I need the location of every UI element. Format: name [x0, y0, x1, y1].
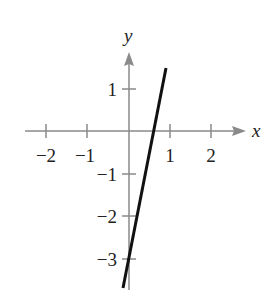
- y-tick-label: 1: [108, 79, 118, 100]
- y-tick-label: −2: [97, 206, 117, 227]
- x-axis-label: x: [251, 120, 261, 141]
- x-axis-arrow-icon: [232, 126, 246, 136]
- y-axis-label: y: [122, 25, 133, 46]
- x-tick-label: −2: [36, 145, 56, 166]
- y-tick-label: −3: [97, 249, 117, 270]
- coordinate-plane: −2 −1 1 2 1 −1 −2 −3 x y: [0, 0, 280, 292]
- y-tick-label: −1: [97, 164, 117, 185]
- x-tick-label: 1: [165, 145, 175, 166]
- y-axis-arrow-icon: [124, 52, 134, 66]
- x-tick-label: 2: [206, 145, 216, 166]
- x-tick-label: −1: [75, 145, 95, 166]
- graph: −2 −1 1 2 1 −1 −2 −3 x y: [0, 0, 280, 292]
